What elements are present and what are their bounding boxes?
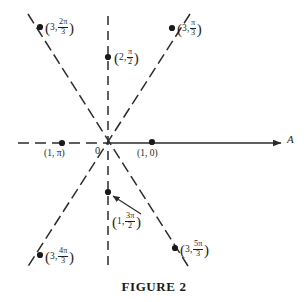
paren-close: ): [197, 21, 202, 37]
angle-fraction: π2: [127, 48, 133, 67]
angle-fraction: 3π2: [125, 212, 135, 231]
point-2-pi-2: [105, 54, 111, 60]
radius-value: 2,: [119, 52, 126, 62]
angle-fraction: π3: [190, 19, 196, 38]
origin-label: 0: [95, 145, 100, 156]
point-3-4pi-3: [37, 252, 43, 258]
point-3-5pi-3: [172, 245, 178, 251]
paren-close: ): [204, 242, 209, 258]
paren-close: ): [69, 20, 74, 36]
paren-close: ): [136, 214, 141, 230]
paren-close: ): [69, 249, 74, 265]
fraction-denominator: 2: [127, 58, 133, 67]
label-point-1-3pi-2: (1,3π2): [112, 212, 141, 231]
radius-value: 3,: [50, 251, 57, 261]
fraction-denominator: 3: [193, 250, 203, 259]
angle-fraction: 5π3: [193, 240, 203, 259]
label-point-1-pi: (1, π): [44, 148, 65, 158]
point-3-2pi-3: [37, 24, 43, 30]
point-1-3pi-2: [105, 189, 111, 195]
radius-value: 3,: [185, 244, 192, 254]
angle-fraction: 2π3: [58, 18, 68, 37]
radius-value: 3,: [182, 23, 189, 33]
label-point-1-0: (1, 0): [137, 148, 158, 158]
fraction-denominator: 3: [58, 28, 68, 37]
label-point-2-pi-2: (2,π2): [114, 48, 139, 67]
paren-close: ): [134, 50, 139, 66]
label-point-3-pi-3: (3,π3): [177, 19, 202, 38]
radius-value: 1,: [117, 216, 124, 226]
fraction-denominator: 3: [58, 257, 68, 266]
angle-fraction: 4π3: [58, 247, 68, 266]
point-3-pi-3: [169, 25, 175, 31]
label-point-3-4pi-3: (3,4π3): [45, 247, 74, 266]
label-point-3-2pi-3: (3,2π3): [45, 18, 74, 37]
polar-figure: (3,2π3) (3,π3) (2,π2) (1,3π2) (3,4π3) (3…: [0, 0, 308, 302]
figure-caption: FIGURE 2: [0, 279, 308, 295]
fraction-denominator: 2: [125, 222, 135, 231]
label-point-3-5pi-3: (3,5π3): [180, 240, 209, 259]
polar-axis-label: A: [287, 133, 294, 145]
radius-value: 3,: [50, 22, 57, 32]
point-1-pi: [59, 140, 65, 146]
point-1-0: [149, 139, 155, 145]
fraction-denominator: 3: [190, 29, 196, 38]
